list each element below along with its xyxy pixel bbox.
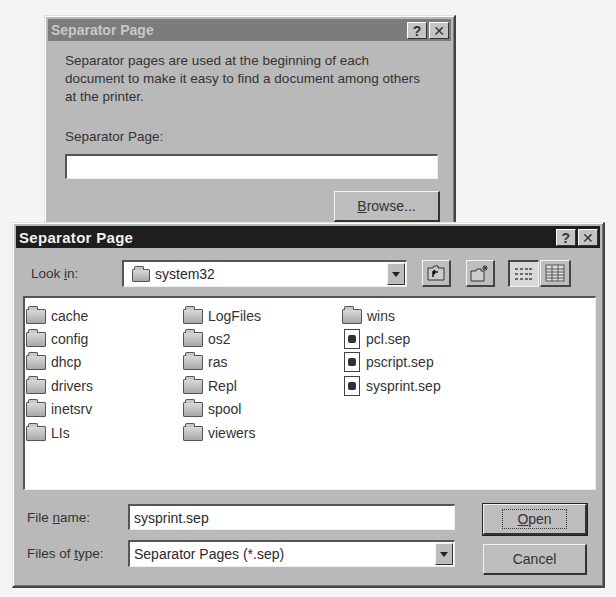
separator-file-icon <box>344 352 360 372</box>
look-in-label: Look in: <box>31 266 78 281</box>
list-item-file[interactable]: pcl.sep <box>344 329 410 349</box>
cancel-button[interactable]: Cancel <box>483 544 587 575</box>
details-view-icon <box>545 264 565 282</box>
up-one-level-button[interactable] <box>422 260 451 287</box>
file-list[interactable] <box>23 296 596 490</box>
dialog-title: Separator Page <box>51 22 154 38</box>
create-new-folder-button[interactable] <box>466 260 495 287</box>
folder-icon <box>26 426 46 441</box>
folder-icon <box>26 402 46 417</box>
list-item-folder[interactable]: cache <box>26 306 88 326</box>
chevron-down-icon[interactable] <box>387 263 405 285</box>
folder-up-icon <box>427 265 445 281</box>
chevron-down-icon[interactable] <box>435 543 453 565</box>
separator-file-icon <box>344 376 360 396</box>
help-button[interactable]: ? <box>407 22 427 39</box>
list-item-file[interactable]: sysprint.sep <box>344 376 441 396</box>
file-name-input[interactable]: sysprint.sep <box>128 504 455 530</box>
list-item-folder[interactable]: LIs <box>26 423 70 443</box>
description-text: Separator pages are used at the beginnin… <box>65 52 425 106</box>
list-item-folder[interactable]: viewers <box>183 423 255 443</box>
file-name-value: sysprint.sep <box>134 510 209 526</box>
browse-button[interactable]: Browse... <box>334 191 440 222</box>
list-item-folder[interactable]: os2 <box>183 329 231 349</box>
open-button[interactable]: Open <box>483 504 587 535</box>
file-type-label: Files of type: <box>27 546 104 561</box>
help-icon: ? <box>413 23 422 39</box>
close-button[interactable]: ✕ <box>429 22 449 39</box>
list-view-button[interactable] <box>508 260 539 287</box>
dialog-title: Separator Page <box>19 229 133 246</box>
file-type-dropdown[interactable]: Separator Pages (*.sep) <box>128 540 455 567</box>
folder-icon <box>183 379 203 394</box>
list-item-folder[interactable]: Repl <box>183 376 237 396</box>
open-label: Open <box>502 509 566 529</box>
folder-icon <box>342 309 362 324</box>
list-item-folder[interactable]: spool <box>183 399 241 419</box>
close-icon: ✕ <box>433 23 445 39</box>
list-item-folder[interactable]: LogFiles <box>183 306 261 326</box>
look-in-dropdown[interactable]: system32 <box>122 260 407 287</box>
close-icon: ✕ <box>582 230 594 246</box>
separator-page-input[interactable] <box>65 154 438 179</box>
folder-icon <box>183 355 203 370</box>
list-item-folder[interactable]: config <box>26 329 88 349</box>
details-view-button[interactable] <box>540 260 571 287</box>
folder-icon <box>183 426 203 441</box>
list-item-folder[interactable]: wins <box>342 306 395 326</box>
separator-page-label: Separator Page: <box>65 129 163 144</box>
folder-icon <box>26 379 46 394</box>
separator-file-icon <box>344 329 360 349</box>
title-bar[interactable]: Separator Page ? ✕ <box>16 226 600 248</box>
list-item-folder[interactable]: inetsrv <box>26 399 92 419</box>
list-item-file[interactable]: pscript.sep <box>344 352 434 372</box>
browse-label: Browse... <box>357 198 415 214</box>
folder-icon <box>183 402 203 417</box>
help-button[interactable]: ? <box>556 229 576 246</box>
file-name-label: File name: <box>27 510 90 525</box>
folder-icon <box>183 332 203 347</box>
folder-icon <box>26 332 46 347</box>
list-item-folder[interactable]: ras <box>183 352 227 372</box>
list-view-icon <box>514 266 534 282</box>
folder-icon <box>183 309 203 324</box>
title-bar[interactable]: Separator Page ? ✕ <box>48 19 451 41</box>
new-folder-icon <box>470 264 490 282</box>
separator-page-settings-dialog: Separator Page ? ✕ Separator pages are u… <box>44 15 456 227</box>
folder-icon <box>26 355 46 370</box>
file-type-value: Separator Pages (*.sep) <box>134 546 284 562</box>
help-icon: ? <box>562 230 571 246</box>
list-item-folder[interactable]: drivers <box>26 376 93 396</box>
folder-icon <box>132 269 150 282</box>
list-item-folder[interactable]: dhcp <box>26 352 81 372</box>
cancel-label: Cancel <box>513 551 557 567</box>
look-in-value: system32 <box>155 266 215 282</box>
close-button[interactable]: ✕ <box>578 229 598 246</box>
folder-icon <box>26 309 46 324</box>
